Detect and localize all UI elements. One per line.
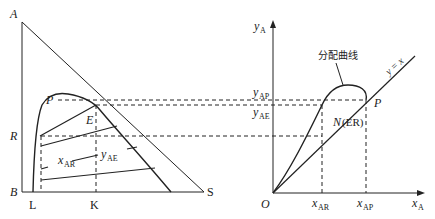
label-L: L <box>29 198 36 212</box>
ternary-and-distribution-diagram: A B S P R E L K x AR y AE y A x A O y AP… <box>0 0 435 219</box>
label-P-left: P <box>45 93 54 107</box>
diagonal-label: y = x <box>382 55 406 78</box>
origin-label: O <box>261 197 270 211</box>
label-S: S <box>207 185 214 199</box>
svg-text:AE: AE <box>259 112 270 121</box>
x-axis-arrow <box>417 190 425 196</box>
svg-text:(ER): (ER) <box>342 116 364 129</box>
svg-text:AP: AP <box>259 92 270 101</box>
label-N-ER: N (ER) <box>332 115 364 129</box>
tick-yAE: y AE <box>252 105 270 121</box>
tick-xAP: x AP <box>356 196 374 212</box>
label-P-right: P <box>373 96 382 110</box>
label-R: R <box>9 129 18 143</box>
svg-text:y: y <box>100 147 107 161</box>
label-B: B <box>10 185 18 199</box>
svg-text:AP: AP <box>363 203 374 212</box>
svg-text:AR: AR <box>64 160 76 169</box>
curve-label-leader <box>336 63 343 85</box>
tie-line-4 <box>41 168 155 180</box>
svg-text:y: y <box>252 85 259 99</box>
tie-line-3a <box>41 167 48 169</box>
label-A: A <box>9 7 18 21</box>
svg-text:x: x <box>356 196 363 210</box>
x-axis-label: x A <box>411 196 424 212</box>
svg-text:A: A <box>260 26 266 35</box>
svg-text:x: x <box>311 196 318 210</box>
svg-text:A: A <box>418 203 424 212</box>
distribution-curve-label: 分配曲线 <box>318 49 358 61</box>
tick-yAP: y AP <box>252 85 270 101</box>
tick-xAR: x AR <box>311 196 330 212</box>
label-E: E <box>85 113 94 127</box>
distribution-curve <box>273 85 366 193</box>
svg-text:x: x <box>57 153 64 167</box>
svg-text:y: y <box>252 105 259 119</box>
tie-line-3b <box>72 155 98 161</box>
label-K: K <box>90 198 99 212</box>
triangle-hypotenuse <box>22 22 204 192</box>
label-xAR-left: x AR <box>57 153 76 169</box>
svg-text:AR: AR <box>318 203 330 212</box>
svg-text:N: N <box>332 115 342 129</box>
y-axis-label: y A <box>253 19 266 35</box>
label-yAE-left: y AE <box>100 147 118 163</box>
svg-text:AE: AE <box>107 154 118 163</box>
y-axis-arrow <box>270 20 276 28</box>
svg-text:y: y <box>253 19 260 33</box>
svg-text:x: x <box>411 196 418 210</box>
